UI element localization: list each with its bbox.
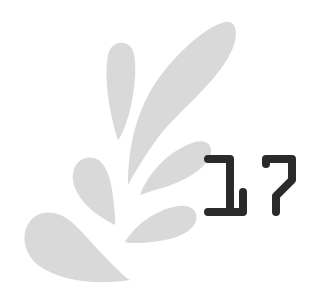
numbered-graphic — [0, 0, 322, 291]
digit-one — [208, 159, 243, 212]
number-17 — [0, 0, 322, 291]
digit-seven — [266, 159, 292, 212]
